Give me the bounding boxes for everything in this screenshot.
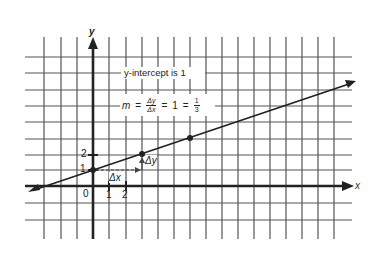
y-axis-label: y [89,26,95,37]
coordinate-plane [0,0,378,256]
delta-fraction: Δy Δx [146,97,156,114]
y-axis [88,37,98,239]
y-tick-label-1: 1 [80,163,86,174]
x-axis-label: x [355,180,360,191]
delta-y-label: Δy [145,155,157,166]
origin-label: 0 [83,188,89,199]
fraction-numerator: 1 [194,97,200,106]
delta-x-denominator: Δx [147,106,155,114]
one-third-fraction: 1 3 [194,97,200,114]
slope-m: m [122,100,130,111]
equals-sign-1: = [135,100,141,111]
x-tick-label-1: 1 [106,189,112,200]
y-intercept-annotation: y-intercept is 1 [124,67,186,79]
point-0-1 [90,167,96,173]
x-tick-label-2: 2 [122,189,128,200]
y-axis-arrow-icon [88,37,98,49]
slope-formula: m = Δy Δx = 1 = 1 3 [122,95,200,115]
equals-sign-2: = [161,100,167,111]
delta-y-numerator: Δy [146,97,156,106]
y-tick-label-2: 2 [81,148,87,159]
fraction-denominator: 3 [195,106,199,114]
point-6-3 [187,135,193,141]
one-value: 1 [172,100,178,111]
delta-x-label: Δx [109,172,121,183]
run-arrow-icon [135,167,141,173]
equals-sign-3: = [183,100,189,111]
x-axis-arrow-icon [342,181,354,191]
line-right-arrow-icon [345,80,356,88]
